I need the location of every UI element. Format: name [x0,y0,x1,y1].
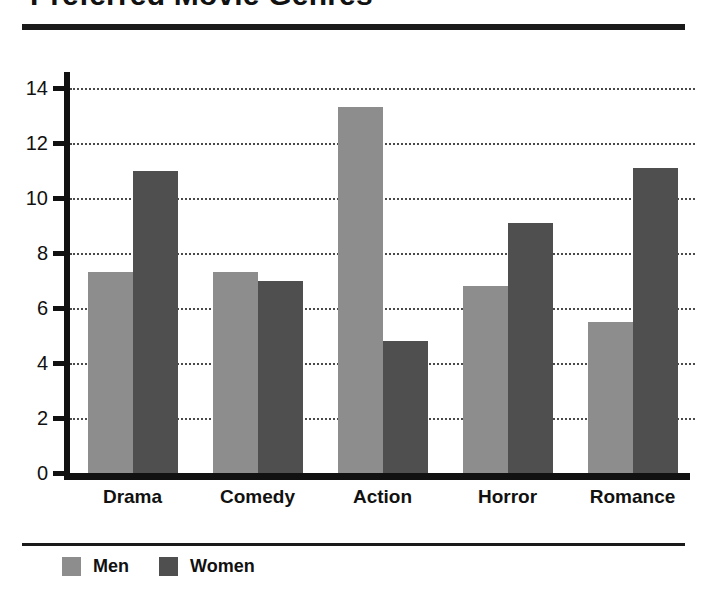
legend-label-women: Women [190,556,255,577]
y-tick-mark [53,86,64,91]
legend-label-men: Men [93,556,129,577]
y-tick-label: 2 [18,408,48,428]
y-tick-label: 6 [18,298,48,318]
y-tick-label: 12 [18,133,48,153]
legend-item-men: Men [62,556,129,577]
gridline [70,88,695,90]
y-tick-mark [53,141,64,146]
bar-action-women [383,341,428,473]
page-title: Preferred Movie Genres [30,0,373,12]
y-tick-label: 14 [18,78,48,98]
legend-swatch-icon-women [159,557,178,576]
y-tick-label: 4 [18,353,48,373]
bar-romance-women [633,168,678,473]
legend-item-women: Women [159,556,255,577]
bar-romance-men [588,322,633,473]
bar-comedy-men [213,272,258,473]
x-category-label-comedy: Comedy [195,486,320,508]
x-axis-spine [64,473,690,480]
bar-action-men [338,107,383,473]
y-tick-mark [53,416,64,421]
plot-area [70,88,695,473]
bar-drama-women [133,171,178,474]
legend-divider [22,543,685,546]
x-category-label-action: Action [320,486,445,508]
chart-title-clip: Preferred Movie Genres [0,0,704,12]
bar-drama-men [88,272,133,473]
chart-page: Preferred Movie Genres 02468101214 Drama… [0,0,704,598]
bar-horror-women [508,223,553,473]
x-category-label-romance: Romance [570,486,695,508]
legend-swatch-icon-men [62,557,81,576]
x-category-label-horror: Horror [445,486,570,508]
y-tick-label: 8 [18,243,48,263]
x-category-label-drama: Drama [70,486,195,508]
y-tick-mark [53,471,64,476]
chart-legend: MenWomen [62,556,255,577]
y-tick-mark [53,361,64,366]
y-tick-label: 0 [18,463,48,483]
bar-horror-men [463,286,508,473]
y-tick-mark [53,251,64,256]
bar-comedy-women [258,281,303,474]
y-tick-mark [53,306,64,311]
gridline [70,143,695,145]
y-tick-label: 10 [18,188,48,208]
y-tick-mark [53,196,64,201]
header-divider [22,24,685,30]
